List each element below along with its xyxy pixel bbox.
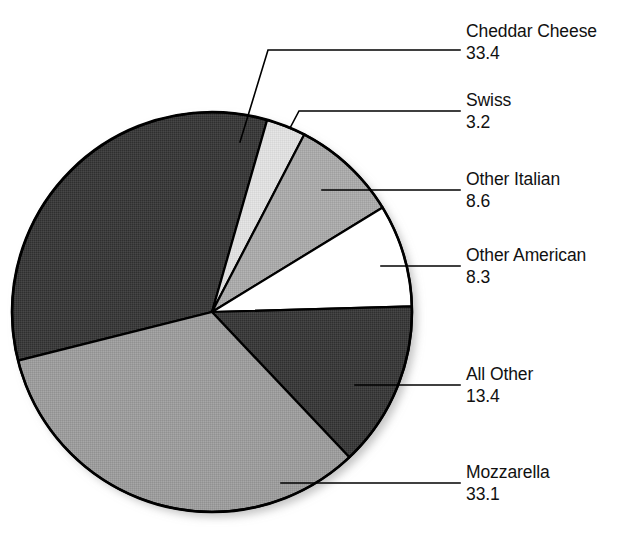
callout-cheddar-cheese: Cheddar Cheese 33.4 bbox=[466, 20, 597, 64]
callout-all-other: All Other 13.4 bbox=[466, 363, 533, 407]
callout-other-american: Other American 8.3 bbox=[466, 244, 586, 288]
callout-value-swiss: 3.2 bbox=[466, 111, 511, 133]
callout-value-other-american: 8.3 bbox=[466, 266, 586, 288]
callout-label-mozzarella: Mozzarella bbox=[466, 461, 550, 483]
callout-label-other-italian: Other Italian bbox=[466, 168, 560, 190]
callout-label-all-other: All Other bbox=[466, 363, 533, 385]
callout-label-swiss: Swiss bbox=[466, 89, 511, 111]
callout-value-other-italian: 8.6 bbox=[466, 190, 560, 212]
pie-chart-figure: Cheddar Cheese 33.4 Swiss 3.2 Other Ital… bbox=[0, 0, 639, 535]
leader-line-swiss bbox=[290, 111, 460, 128]
callout-value-all-other: 13.4 bbox=[466, 385, 533, 407]
callout-value-cheddar-cheese: 33.4 bbox=[466, 42, 597, 64]
callout-mozzarella: Mozzarella 33.1 bbox=[466, 461, 550, 505]
callout-swiss: Swiss 3.2 bbox=[466, 89, 511, 133]
callout-label-cheddar-cheese: Cheddar Cheese bbox=[466, 20, 597, 42]
callout-label-other-american: Other American bbox=[466, 244, 586, 266]
callout-other-italian: Other Italian 8.6 bbox=[466, 168, 560, 212]
callout-value-mozzarella: 33.1 bbox=[466, 483, 550, 505]
